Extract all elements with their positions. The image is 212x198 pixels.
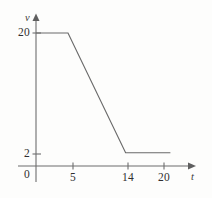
velocity-time-graph-figure: v t 0 20 2 5 14 20 xyxy=(0,0,212,198)
x-tick-label-5: 5 xyxy=(70,172,76,184)
y-axis-arrow-icon xyxy=(33,14,40,22)
x-axis-label: t xyxy=(191,172,194,183)
x-tick-label-14: 14 xyxy=(122,172,134,184)
x-axis-arrow-icon xyxy=(188,162,196,169)
y-tick-label-20: 20 xyxy=(10,27,30,39)
y-axis-label: v xyxy=(25,13,30,24)
x-tick-label-20: 20 xyxy=(158,172,170,184)
y-tick-label-2: 2 xyxy=(10,148,30,160)
velocity-curve xyxy=(36,33,170,153)
chart-canvas xyxy=(0,0,212,198)
origin-label: 0 xyxy=(24,169,30,181)
